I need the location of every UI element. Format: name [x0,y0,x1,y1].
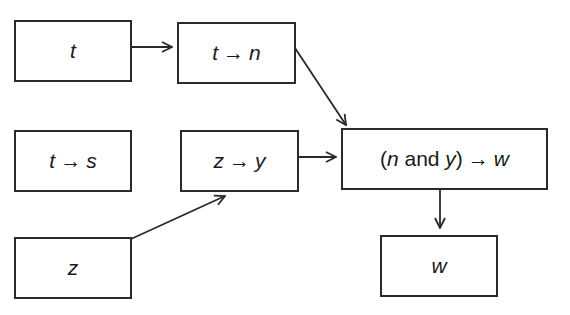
edge-tn-to-nyw [295,48,346,125]
node-z-label: z [68,256,79,280]
var-w: w [494,147,509,171]
implies-arrow: → [218,41,249,65]
node-t-label: t [70,39,76,63]
implies-arrow: → [55,149,86,173]
node-t-implies-s: t → s [14,130,132,192]
consequent: n [249,41,261,65]
node-n-and-y-implies-w: ( n and y ) → w [341,128,548,190]
implies-arrow: → [463,147,494,171]
antecedent: z [214,149,225,173]
node-z: z [14,237,132,299]
node-w-label: w [431,254,446,278]
consequent: y [255,149,266,173]
edge-z-to-zy [131,196,225,239]
var-y: y [445,147,456,171]
close-paren: ) [456,147,463,171]
node-z-implies-y: z → y [180,130,299,192]
open-paren: ( [380,147,387,171]
node-w: w [380,235,498,297]
consequent: s [86,149,97,173]
and-text: and [399,147,446,171]
node-t-implies-n: t → n [177,22,296,84]
var-n: n [387,147,399,171]
node-t: t [14,20,132,82]
implies-arrow: → [224,149,255,173]
